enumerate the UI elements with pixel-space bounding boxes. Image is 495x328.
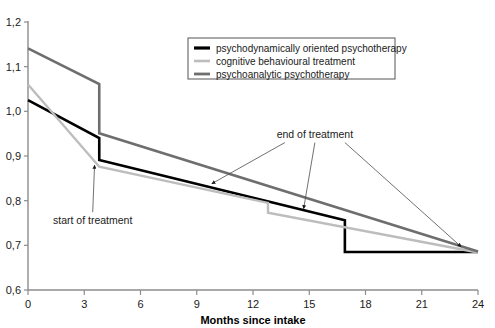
x-tick-label: 3 bbox=[81, 298, 87, 310]
legend-label: psychodynamically oriented psychotherapy bbox=[216, 43, 407, 54]
y-tick-label: 0,6 bbox=[6, 284, 21, 296]
x-tick-label: 18 bbox=[359, 298, 371, 310]
y-tick-label: 0,9 bbox=[6, 150, 21, 162]
x-tick-label: 15 bbox=[303, 298, 315, 310]
annotation-label-start-of-treatment: start of treatment bbox=[53, 214, 132, 226]
y-tick-label: 0,8 bbox=[6, 195, 21, 207]
x-tick-label: 24 bbox=[472, 298, 484, 310]
legend-label: cognitive behavioural treatment bbox=[216, 56, 355, 67]
x-tick-label: 9 bbox=[194, 298, 200, 310]
annotation-label-end-of-treatment: end of treatment bbox=[277, 128, 354, 140]
x-tick-label: 12 bbox=[247, 298, 259, 310]
x-axis-title: Months since intake bbox=[200, 314, 305, 326]
y-tick-label: 1,0 bbox=[6, 105, 21, 117]
x-tick-label: 6 bbox=[137, 298, 143, 310]
y-tick-label: 1,2 bbox=[6, 16, 21, 28]
annotation-arrow bbox=[212, 143, 285, 184]
x-tick-label: 21 bbox=[416, 298, 428, 310]
series-line bbox=[28, 85, 478, 253]
line-chart: 0,60,70,80,91,01,11,203691215182124Month… bbox=[0, 0, 495, 328]
legend-label: psychoanalytic psychotherapy bbox=[216, 69, 349, 80]
chart-container: 0,60,70,80,91,01,11,203691215182124Month… bbox=[0, 0, 495, 328]
x-tick-label: 0 bbox=[25, 298, 31, 310]
annotation-arrow bbox=[93, 165, 95, 212]
y-tick-label: 1,1 bbox=[6, 61, 21, 73]
y-tick-label: 0,7 bbox=[6, 239, 21, 251]
